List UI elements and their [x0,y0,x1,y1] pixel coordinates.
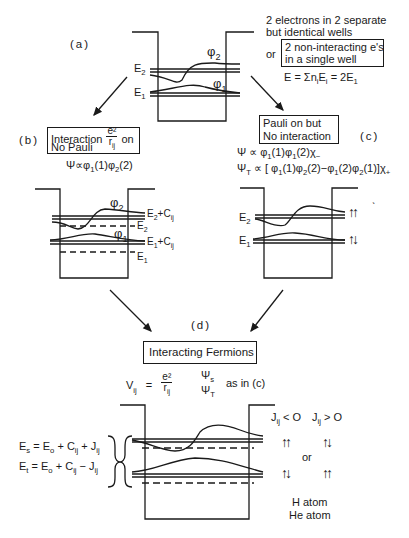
arrow-a-to-b [94,77,127,115]
panel-label-a: (a) [70,38,90,50]
phi-s-d-curve [132,425,263,451]
phi1-label-a: φ1 [213,78,227,95]
phi1-b-curve [50,234,145,241]
phi2-label-b: φ2 [110,197,124,214]
panel-a-desc-line1: 2 electrons in 2 separate [266,14,386,26]
singlet-energy-equation: Es = Eo + Cij + Jij [19,440,100,457]
spin-arrows-r1c1: ↑↑ [281,436,289,448]
panel-a-boxed-line1: 2 non-interacting e's [285,41,384,53]
level-label-e1-a: E1 [134,86,146,103]
panel-b-condition-box: Interaction e²rij on No Pauli [47,127,140,154]
panel-b-coulomb-fraction: e²rij [106,126,117,151]
phi-t-d-curve [132,458,263,472]
arrow-b-to-d [110,290,151,331]
panel-c-box-line2: No interaction [263,130,331,142]
panel-c-condition-box: Pauli on but No interaction [259,115,339,144]
h-atom-label: H atom [292,496,327,508]
panel-a-energy-equation: E = ΣniEi = 2E1 [284,71,358,88]
spin-arrows-r1c2: ↑↓ [322,436,330,448]
exchange-negative-label: Jij < O [271,411,301,428]
spin-arrows-r2c2: ↑↑ [322,467,330,479]
panel-label-c: (c) [360,130,379,142]
well-a [132,32,254,121]
brace-right [108,436,120,487]
panel-b-box-line2: No Pauli [51,141,93,153]
spin-or-label: or [302,451,312,463]
level-label-e1-b: E1 [137,251,148,266]
panel-label-d: (d) [191,319,211,331]
panel-d-coulomb-fraction: e²rij [161,372,172,397]
exchange-positive-label: Jij > O [312,411,342,428]
phi2-label-a: φ2 [207,46,221,63]
panel-label-b: (b) [19,134,39,146]
phi1-label-b: φ1 [114,228,128,245]
panel-a-boxed-note: 2 non-interacting e's in a single well [281,39,384,67]
level-label-e2-c: E2 [239,211,251,228]
spin-arrows-upper-c: ↑↑ [348,206,356,218]
panel-c-box-line1: Pauli on but [263,117,321,129]
panel-d-potential: Vij = e²rij [126,376,172,397]
well-d [120,405,275,519]
panel-d-psi-t: ΨT [201,384,215,401]
panel-a-desc-line2: but identical wells [266,26,352,38]
level-label-e1-c: E1 [239,234,251,251]
level-label-e2-b: E2 [137,220,148,235]
brace-left [120,436,132,487]
spin-arrows-lower-c: ↑↓ [348,233,356,245]
arrow-a-to-c [251,76,283,110]
panel-b-wavefunction: Ψ∝φ1(1)φ2(2) [66,159,133,176]
arrow-c-to-d [251,290,283,331]
panel-d-as-in-c: as in (c) [226,377,265,389]
panel-d-title-box: Interacting Fermions [143,341,257,364]
stray-mark: ˎ [372,192,376,204]
panel-a-or: or [266,48,276,60]
level-label-e1-plus-c-b: E1+Cij [147,236,174,251]
he-atom-label: He atom [289,509,331,521]
phi1-c-curve [253,233,345,240]
panel-d-title: Interacting Fermions [149,346,254,358]
triplet-energy-equation: Et = Eo + Cij − Jij [19,460,98,477]
level-label-e2-plus-c-b: E2+Cij [147,208,174,223]
panel-a-boxed-line2: in a single well [285,53,357,65]
spin-arrows-r2c1: ↑↓ [281,467,289,479]
level-label-e2-a: E2 [134,62,146,79]
panel-c-triplet-wavefunction: ΨT ∝ [ φ1(1)φ2(2)−φ1(2)φ2(1)]χ+ [237,162,390,179]
panel-c-singlet-wavefunction: Ψ ∝ φ1(1)φ1(2)χ− [237,146,320,163]
